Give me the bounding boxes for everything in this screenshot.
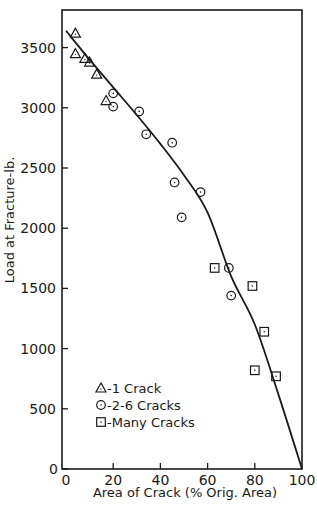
triangle-marker-dot (105, 101, 106, 102)
triangle-marker-dot (75, 54, 76, 55)
legend-square-icon-dot (100, 421, 102, 423)
y-tick-label: 0 (49, 461, 58, 477)
triangle-marker (70, 28, 80, 37)
y-tick-label: 3000 (20, 100, 56, 116)
x-axis-label: Area of Crack (% Orig. Area) (93, 485, 277, 500)
circle-marker-dot (230, 295, 232, 297)
legend-label: -Many Cracks (107, 415, 195, 430)
triangle-marker-dot (75, 33, 76, 34)
circle-marker-dot (181, 217, 183, 219)
legend: -1 Crack-2-6 Cracks-Many Cracks (96, 381, 195, 430)
circle-marker-dot (200, 191, 202, 193)
circle-marker-dot (138, 111, 140, 113)
circle-marker-dot (112, 106, 114, 108)
triangle-marker-dot (89, 62, 90, 63)
x-tick-label: 100 (289, 472, 316, 488)
circle-marker-dot (171, 142, 173, 144)
legend-label: -2-6 Cracks (107, 398, 181, 413)
y-tick-label: 500 (29, 401, 56, 417)
legend-triangle-icon-dot (100, 388, 101, 389)
circle-marker-dot (228, 267, 230, 269)
plot-border (62, 10, 302, 469)
circle-marker-dot (174, 182, 176, 184)
data-points (70, 28, 280, 380)
square-marker-dot (275, 375, 277, 377)
square-marker-dot (263, 331, 265, 333)
chart: 0500100015002000250030003500 02040608010… (0, 0, 317, 505)
plot-frame (62, 10, 302, 469)
y-tick-label: 2500 (20, 160, 56, 176)
triangle-marker (92, 69, 102, 78)
x-tick-label: 0 (62, 472, 71, 488)
circle-marker-dot (112, 93, 114, 95)
triangle-marker (70, 49, 80, 58)
legend-triangle-icon (96, 383, 106, 392)
legend-label: -1 Crack (107, 381, 162, 396)
square-marker-dot (214, 267, 216, 269)
square-marker-dot (252, 285, 254, 287)
triangle-marker-dot (96, 74, 97, 75)
y-tick-label: 1000 (20, 341, 56, 357)
y-tick-label: 2000 (20, 220, 56, 236)
y-tick-label: 3500 (20, 40, 56, 56)
legend-circle-icon-dot (100, 404, 102, 406)
y-tick-label: 1500 (20, 280, 56, 296)
square-marker-dot (254, 369, 256, 371)
triangle-marker (101, 96, 111, 105)
y-axis-ticks: 0500100015002000250030003500 (20, 40, 68, 477)
triangle-marker-dot (84, 59, 85, 60)
y-axis-label: Load at Fracture-lb. (2, 157, 17, 284)
fit-curve (66, 31, 302, 469)
circle-marker-dot (145, 133, 147, 135)
fit-curve-line (66, 31, 302, 469)
